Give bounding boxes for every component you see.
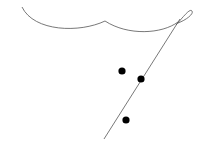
dot-2 [137,75,144,82]
diagram-svg [0,0,205,149]
drawing-canvas [0,0,205,149]
dot-1 [118,67,125,74]
dot-3 [122,116,129,123]
